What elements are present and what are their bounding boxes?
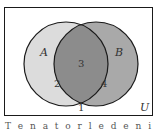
region-outside: 1 (78, 102, 84, 113)
set-a-label: A (39, 46, 48, 59)
region-intersection: 3 (78, 58, 84, 69)
figure-caption: T e n a t o r l e d e n i s (0, 121, 158, 129)
universe-label: U (140, 101, 150, 114)
venn-diagram: A B 2 3 4 1 U (0, 0, 158, 129)
region-b-only: 4 (101, 78, 107, 89)
set-b-label: B (114, 46, 123, 59)
region-a-only: 2 (54, 78, 60, 89)
